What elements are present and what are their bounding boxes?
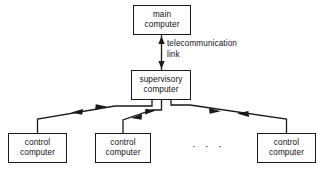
ellipsis-more-control-computers: · · ·	[192, 141, 225, 152]
node-control-computer-2-label-line1: control	[110, 138, 135, 149]
node-supervisory-computer-label-line1: supervisory	[140, 75, 183, 86]
branch-connector-control-2	[123, 100, 162, 133]
node-main-computer-label-line2: computer	[145, 20, 180, 31]
node-control-computer-n-label-line2: computer	[269, 148, 304, 159]
node-control-computer-1-label-line1: control	[25, 138, 50, 149]
telecommunication-link-label-line1: telecommunication	[167, 39, 237, 50]
node-supervisory-computer[interactable]: supervisory computer	[131, 70, 191, 100]
node-control-computer-1[interactable]: control computer	[8, 133, 67, 163]
node-control-computer-2[interactable]: control computer	[95, 133, 151, 163]
node-control-computer-1-label-line2: computer	[20, 148, 55, 159]
node-control-computer-2-label-line2: computer	[106, 148, 141, 159]
telecommunication-link-label-line2: link	[167, 50, 237, 61]
arrowhead-down-icon	[158, 61, 164, 69]
telecommunication-link-connector	[158, 35, 164, 70]
node-control-computer-n-label-line1: control	[274, 138, 299, 149]
branch-connector-control-n	[171, 100, 287, 133]
telecommunication-link-label: telecommunication link	[167, 39, 237, 60]
node-main-computer[interactable]: main computer	[133, 5, 191, 35]
node-main-computer-label-line1: main	[153, 10, 171, 21]
arrowhead-up-icon	[158, 36, 164, 44]
network-diagram: main computer supervisory computer contr…	[0, 0, 323, 172]
arrowhead-left-icon	[71, 109, 83, 115]
node-control-computer-n[interactable]: control computer	[257, 133, 316, 163]
node-supervisory-computer-label-line2: computer	[144, 85, 179, 96]
